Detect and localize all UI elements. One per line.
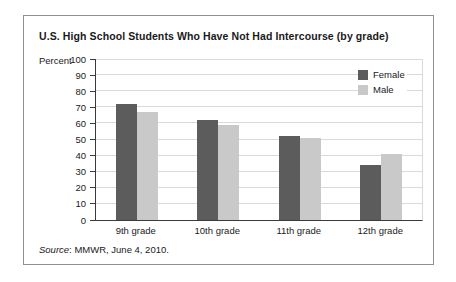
source-line: Source: MMWR, June 4, 2010. bbox=[39, 244, 169, 255]
y-tick-label-60: 60 bbox=[75, 118, 86, 129]
y-tick-label-20: 20 bbox=[75, 182, 86, 193]
source-label: Source bbox=[39, 244, 69, 255]
y-tick-mark-20 bbox=[90, 187, 95, 188]
y-tick-label-40: 40 bbox=[75, 150, 86, 161]
y-tick-mark-0 bbox=[90, 220, 95, 221]
bar-female-10th-grade bbox=[197, 120, 218, 220]
y-tick-mark-80 bbox=[90, 91, 95, 92]
y-tick-mark-100 bbox=[90, 59, 95, 60]
y-tick-mark-90 bbox=[90, 75, 95, 76]
bar-female-12th-grade bbox=[360, 165, 381, 220]
legend-swatch-female bbox=[358, 70, 368, 80]
bar-group-10th-grade bbox=[178, 59, 260, 220]
bar-female-9th-grade bbox=[116, 104, 137, 220]
bar-male-9th-grade bbox=[137, 112, 158, 220]
bar-female-11th-grade bbox=[279, 136, 300, 220]
y-tick-label-30: 30 bbox=[75, 166, 86, 177]
legend-item-male: Male bbox=[358, 84, 407, 95]
figure-canvas: U.S. High School Students Who Have Not H… bbox=[0, 0, 456, 282]
x-axis-label-9th-grade: 9th grade bbox=[95, 225, 177, 236]
y-tick-mark-60 bbox=[90, 123, 95, 124]
bar-male-11th-grade bbox=[300, 138, 321, 220]
y-tick-mark-10 bbox=[90, 203, 95, 204]
legend-label-male: Male bbox=[373, 84, 394, 95]
source-text: : MMWR, June 4, 2010. bbox=[69, 244, 169, 255]
y-axis-tick-labels: 0102030405060708090100 bbox=[24, 59, 86, 220]
y-tick-label-100: 100 bbox=[70, 54, 86, 65]
y-tick-mark-70 bbox=[90, 107, 95, 108]
chart-title: U.S. High School Students Who Have Not H… bbox=[39, 30, 389, 42]
figure-box: U.S. High School Students Who Have Not H… bbox=[23, 15, 434, 265]
bar-group-11th-grade bbox=[259, 59, 341, 220]
x-axis-label-10th-grade: 10th grade bbox=[177, 225, 259, 236]
y-tick-label-0: 0 bbox=[81, 215, 86, 226]
y-tick-label-50: 50 bbox=[75, 134, 86, 145]
y-tick-label-90: 90 bbox=[75, 70, 86, 81]
x-axis-label-11th-grade: 11th grade bbox=[258, 225, 340, 236]
y-tick-label-10: 10 bbox=[75, 198, 86, 209]
y-tick-mark-30 bbox=[90, 171, 95, 172]
y-tick-label-70: 70 bbox=[75, 102, 86, 113]
y-tick-mark-50 bbox=[90, 139, 95, 140]
legend: FemaleMale bbox=[358, 69, 407, 99]
x-axis-label-12th-grade: 12th grade bbox=[340, 225, 422, 236]
bar-male-12th-grade bbox=[381, 154, 402, 220]
legend-item-female: Female bbox=[358, 69, 407, 80]
legend-swatch-male bbox=[358, 85, 368, 95]
legend-label-female: Female bbox=[373, 69, 405, 80]
x-axis-labels: 9th grade10th grade11th grade12th grade bbox=[95, 225, 421, 236]
bar-group-9th-grade bbox=[96, 59, 178, 220]
y-tick-label-80: 80 bbox=[75, 86, 86, 97]
y-tick-mark-40 bbox=[90, 155, 95, 156]
bar-male-10th-grade bbox=[218, 125, 239, 220]
